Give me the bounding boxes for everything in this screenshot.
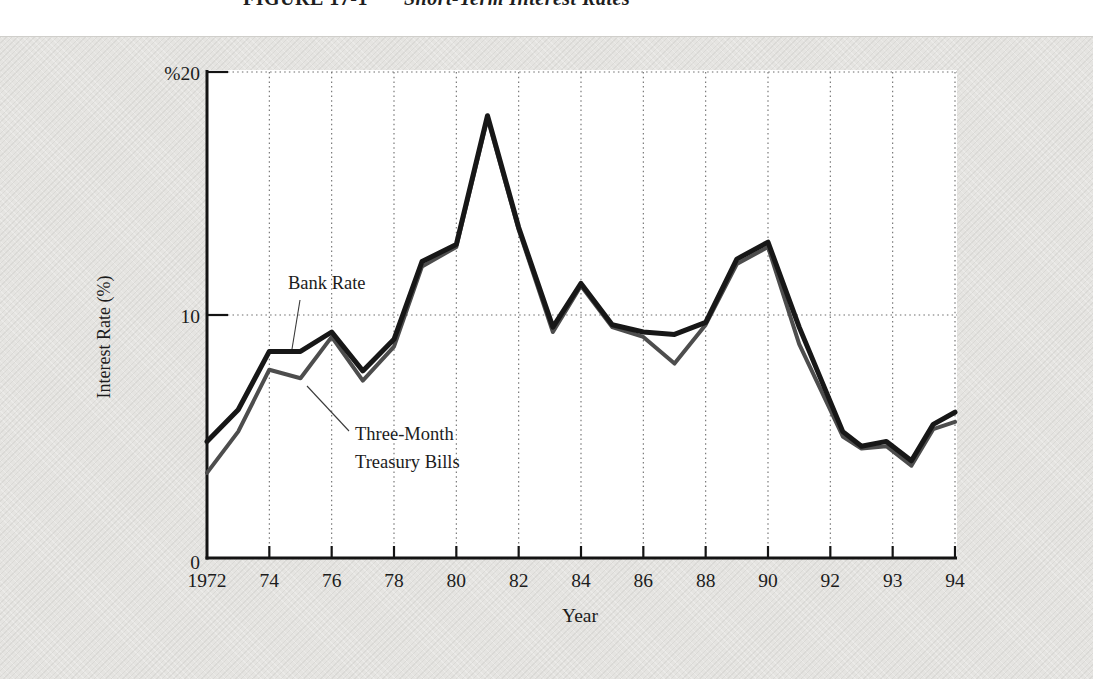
x-tick-label: 80 [447, 570, 467, 591]
interest-rate-chart: 010%201972747678808284868890929394YearIn… [0, 0, 1093, 679]
x-tick-label: 78 [384, 570, 404, 591]
textbook-page: FIGURE 17-1Short-Term Interest Rates 010… [0, 0, 1093, 679]
y-tick-label: 10 [181, 306, 201, 327]
y-tick-label: %20 [164, 63, 200, 84]
x-tick-label: 74 [260, 570, 280, 591]
y-axis-title: Interest Rate (%) [94, 276, 115, 399]
x-tick-label: 93 [883, 570, 903, 591]
x-axis-title: Year [562, 605, 598, 626]
x-tick-label: 94 [945, 570, 965, 591]
plot-area [207, 70, 957, 558]
treasury-bills-label: Treasury Bills [355, 452, 460, 472]
x-tick-label: 90 [758, 570, 778, 591]
x-tick-label: 76 [322, 570, 342, 591]
x-tick-label: 1972 [188, 570, 227, 591]
bank-rate-label: Bank Rate [288, 273, 366, 293]
x-tick-label: 84 [571, 570, 591, 591]
treasury-bills-label: Three-Month [355, 424, 454, 444]
x-tick-label: 86 [634, 570, 654, 591]
x-tick-label: 92 [821, 570, 841, 591]
x-tick-label: 88 [696, 570, 716, 591]
x-tick-label: 82 [509, 570, 529, 591]
